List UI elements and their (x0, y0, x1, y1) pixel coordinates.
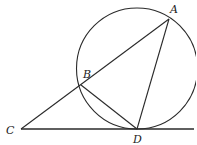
point-label-a: A (169, 3, 178, 16)
geometry-diagram: A B C D (0, 0, 196, 145)
point-label-b: B (82, 68, 91, 81)
point-label-d: D (132, 133, 142, 145)
circle (77, 8, 197, 129)
point-label-c: C (6, 124, 15, 137)
chord-ad (137, 19, 169, 129)
